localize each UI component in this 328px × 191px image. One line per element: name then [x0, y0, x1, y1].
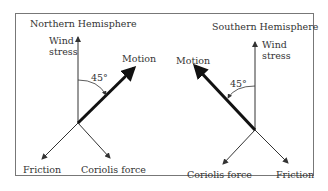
wind-stress-label: Wind — [262, 39, 287, 50]
coriolis-arrow — [78, 123, 110, 158]
coriolis-arrow — [223, 130, 255, 164]
friction-label: Friction — [23, 164, 61, 175]
coriolis-label: Coriolis force — [81, 164, 146, 175]
motion-label: Motion — [176, 55, 210, 66]
angle-label: 45° — [230, 78, 247, 89]
wind-stress-label: stress — [262, 50, 291, 61]
friction-arrow — [42, 123, 78, 159]
northern-title: Northern Hemisphere — [30, 18, 137, 29]
angle-label: 45° — [91, 72, 108, 83]
wind-stress-label: Wind — [49, 35, 74, 46]
wind-stress-label: stress — [49, 46, 78, 57]
motion-label: Motion — [122, 53, 156, 64]
motion-arrow — [195, 66, 255, 130]
southern-title: Southern Hemisphere — [212, 21, 318, 32]
coriolis-label: Coriolis force — [187, 169, 252, 180]
friction-label: Friction — [276, 169, 314, 180]
friction-arrow — [255, 130, 288, 163]
